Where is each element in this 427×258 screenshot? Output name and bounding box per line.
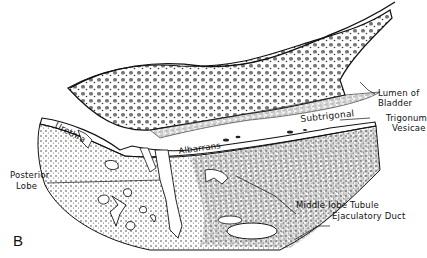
label-posterior-lobe-line1: Posterior [10,170,49,180]
panel-letter: B [13,232,23,249]
label-lumen-of-bladder-line1: Lumen of [378,88,419,98]
label-trigonum-vesicae-line1: Trigonum [386,113,427,123]
label-middle-lobe-tubule: Middle lobe Tubule [296,200,379,210]
label-posterior-lobe-line2: Lobe [16,181,37,191]
label-lumen-of-bladder-line2: Bladder [378,98,412,108]
label-trigonum-vesicae-line2: Vesicae [392,123,426,133]
label-ejaculatory-duct: Ejaculatory Duct [332,211,405,221]
